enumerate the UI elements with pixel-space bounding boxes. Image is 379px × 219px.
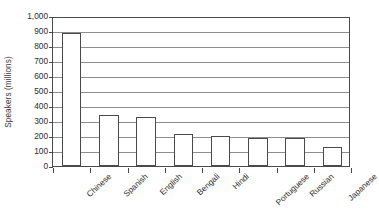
x-tick-label: Bengali — [196, 172, 222, 197]
x-tick-label: Japanese — [347, 172, 379, 203]
x-tick-label: Hindi — [231, 172, 251, 191]
x-tick-label: Spanish — [122, 172, 150, 199]
x-tick-label: Chinese — [85, 172, 113, 199]
x-tick-label: English — [158, 172, 184, 197]
x-tick-label: Portuguese — [274, 172, 311, 207]
x-tick-label: Russian — [308, 172, 336, 199]
